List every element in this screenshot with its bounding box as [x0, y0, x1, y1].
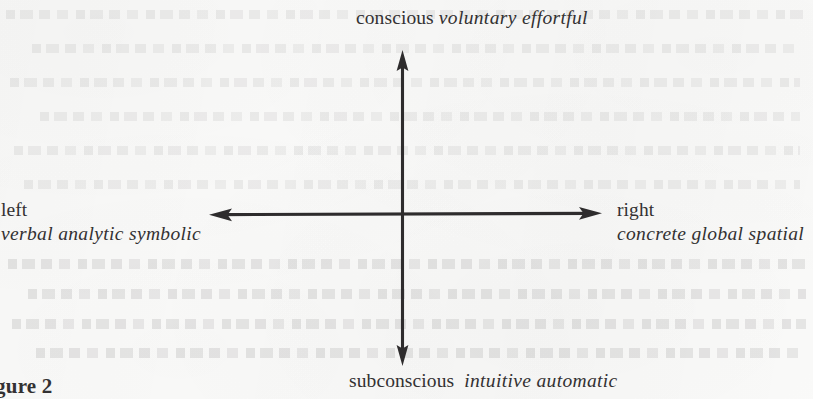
axis-label-right-descriptors: concrete global spatial	[617, 224, 804, 245]
axis-label-top: conscious voluntary effortful	[356, 8, 588, 29]
axis-label-left-descriptors: verbal analytic symbolic	[1, 224, 201, 245]
axis-label-bottom: subconscious intuitive automatic	[349, 371, 618, 392]
axis-label-bottom-descriptors: intuitive automatic	[464, 370, 617, 391]
axis-label-right-primary: right	[617, 199, 654, 220]
axis-label-top-primary: conscious	[356, 7, 434, 28]
horizontal-axis-line	[218, 213, 594, 214]
figure-caption: Figure 2	[0, 374, 52, 399]
figure-page: conscious voluntary effortful subconscio…	[0, 0, 813, 399]
axis-label-top-descriptors: voluntary effortful	[439, 7, 588, 28]
axis-label-left-primary: left	[1, 199, 27, 220]
axis-label-bottom-primary: subconscious	[349, 370, 454, 391]
axis-label-right: right concrete global spatial	[617, 200, 804, 244]
axis-label-left: left verbal analytic symbolic	[1, 200, 201, 244]
